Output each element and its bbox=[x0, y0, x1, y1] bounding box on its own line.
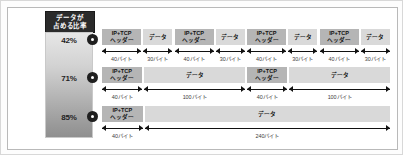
ratio-value-1: 71% bbox=[45, 74, 93, 83]
dimension-arrow bbox=[216, 48, 245, 55]
arrow-head-left-icon bbox=[102, 48, 106, 54]
arrow-head-left-icon bbox=[288, 48, 292, 54]
packet-row-3: IP+TCPヘッダー40バイトデータ240バイト bbox=[102, 106, 390, 144]
segment-label-line2: ヘッダー bbox=[110, 75, 134, 82]
segment-ip-tcp-header: IP+TCPヘッダー bbox=[102, 106, 143, 122]
arrow-head-left-icon bbox=[320, 48, 324, 54]
dimension-arrow bbox=[102, 125, 143, 132]
segment-ip-tcp-header: IP+TCPヘッダー bbox=[175, 29, 214, 45]
segment-label-line1: IP+TCP bbox=[255, 68, 279, 75]
dimension-label: 30バイト bbox=[288, 55, 317, 63]
dimension-line bbox=[247, 51, 286, 52]
arrow-head-right-icon bbox=[282, 48, 286, 54]
segment-label-line1: データ bbox=[149, 34, 167, 41]
segment-data: データ bbox=[216, 29, 245, 45]
dimension-arrow bbox=[320, 48, 359, 55]
segment-label-line1: IP+TCP bbox=[255, 30, 279, 37]
arrow-head-left-icon bbox=[102, 125, 106, 131]
segment-label-line2: ヘッダー bbox=[110, 114, 134, 121]
dimension-label: 40バイト bbox=[247, 93, 287, 101]
dimension-arrow bbox=[102, 48, 141, 55]
dimension-line bbox=[145, 128, 390, 129]
segment-label-line1: データ bbox=[294, 34, 312, 41]
arrow-head-right-icon bbox=[386, 125, 390, 131]
row-marker-2 bbox=[87, 72, 98, 83]
arrow-head-left-icon bbox=[216, 48, 220, 54]
segment-ip-tcp-header: IP+TCPヘッダー bbox=[247, 67, 287, 83]
dimension-arrow bbox=[247, 86, 287, 93]
packet-row-1: IP+TCPヘッダー40バイトデータ30バイトIP+TCPヘッダー40バイトデー… bbox=[102, 29, 390, 67]
ratio-gradient-scale bbox=[45, 32, 93, 138]
arrow-head-left-icon bbox=[143, 48, 147, 54]
dimension-arrow bbox=[145, 125, 390, 132]
dimension-arrow bbox=[143, 48, 172, 55]
dimension-label: 40バイト bbox=[175, 55, 214, 63]
arrow-head-right-icon bbox=[283, 86, 287, 92]
arrow-head-left-icon bbox=[102, 86, 106, 92]
dimension-label: 240バイト bbox=[145, 132, 390, 140]
dimension-line bbox=[247, 89, 287, 90]
arrow-head-right-icon bbox=[137, 48, 141, 54]
dimension-line bbox=[102, 51, 141, 52]
dimension-label: 30バイト bbox=[361, 55, 390, 63]
dimension-line bbox=[102, 128, 143, 129]
arrow-head-left-icon bbox=[247, 48, 251, 54]
arrow-head-left-icon bbox=[175, 48, 179, 54]
segment-data: データ bbox=[145, 106, 390, 122]
dimension-arrow bbox=[144, 86, 245, 93]
dimension-arrow bbox=[247, 48, 286, 55]
arrow-head-right-icon bbox=[386, 48, 390, 54]
ratio-value-0: 42% bbox=[45, 36, 93, 45]
segment-data: データ bbox=[361, 29, 390, 45]
legend-title-line2: 占める比率 bbox=[53, 22, 87, 31]
dimension-label: 100バイト bbox=[144, 93, 245, 101]
segment-label-line1: IP+TCP bbox=[110, 30, 134, 37]
segment-label-line1: IP+TCP bbox=[110, 68, 134, 75]
dimension-line bbox=[320, 51, 359, 52]
arrow-head-right-icon bbox=[138, 86, 142, 92]
segment-label-line2: ヘッダー bbox=[110, 37, 134, 44]
segment-data: データ bbox=[288, 29, 317, 45]
dimension-line bbox=[289, 89, 390, 90]
segment-data: データ bbox=[289, 67, 390, 83]
legend-title-line1: データが bbox=[56, 14, 83, 23]
dimension-label: 40バイト bbox=[102, 93, 142, 101]
segment-data: データ bbox=[144, 67, 245, 83]
arrow-head-right-icon bbox=[168, 48, 172, 54]
segment-ip-tcp-header: IP+TCPヘッダー bbox=[102, 67, 142, 83]
segment-ip-tcp-header: IP+TCPヘッダー bbox=[102, 29, 141, 45]
segment-label-line1: データ bbox=[186, 72, 204, 79]
segment-label-line1: IP+TCP bbox=[327, 30, 351, 37]
dimension-line bbox=[144, 89, 245, 90]
segment-label-line1: IP+TCP bbox=[182, 30, 206, 37]
legend-title-chip: データが 占める比率 bbox=[45, 11, 95, 33]
arrow-head-right-icon bbox=[241, 48, 245, 54]
arrow-head-left-icon bbox=[144, 86, 148, 92]
arrow-head-left-icon bbox=[145, 125, 149, 131]
dimension-label: 30バイト bbox=[216, 55, 245, 63]
arrow-head-left-icon bbox=[247, 86, 251, 92]
segment-label-line1: データ bbox=[221, 34, 239, 41]
arrow-head-left-icon bbox=[361, 48, 365, 54]
segment-label-line1: データ bbox=[258, 111, 276, 118]
segment-label-line1: データ bbox=[366, 34, 384, 41]
dimension-label: 40バイト bbox=[102, 132, 143, 140]
segment-label-line2: ヘッダー bbox=[182, 37, 206, 44]
row-marker-1 bbox=[87, 34, 98, 45]
segment-data: データ bbox=[143, 29, 172, 45]
arrow-head-left-icon bbox=[289, 86, 293, 92]
arrow-head-right-icon bbox=[313, 48, 317, 54]
segment-label-line1: データ bbox=[331, 72, 349, 79]
figure-frame: データが 占める比率 42% 71% 85% IP+TCPヘッダー40バイトデー… bbox=[0, 0, 403, 155]
dimension-arrow bbox=[289, 86, 390, 93]
dimension-label: 40バイト bbox=[320, 55, 359, 63]
dimension-label: 40バイト bbox=[247, 55, 286, 63]
dimension-line bbox=[175, 51, 214, 52]
ratio-value-2: 85% bbox=[45, 113, 93, 122]
dimension-arrow bbox=[288, 48, 317, 55]
segment-label-line2: ヘッダー bbox=[255, 75, 279, 82]
arrow-head-right-icon bbox=[139, 125, 143, 131]
dimension-label: 100バイト bbox=[289, 93, 390, 101]
arrow-head-right-icon bbox=[210, 48, 214, 54]
dimension-arrow bbox=[361, 48, 390, 55]
